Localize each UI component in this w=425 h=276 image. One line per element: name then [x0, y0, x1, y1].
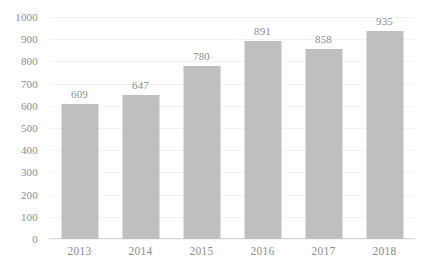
- y-axis-tick-label: 600: [21, 100, 38, 112]
- x-axis-tick-label: 2013: [67, 245, 91, 257]
- bar-value-label: 858: [315, 33, 332, 45]
- bar-group: 780: [171, 17, 232, 239]
- bar-group: 858: [293, 17, 354, 239]
- y-axis: 01002003004005006007008009001000: [0, 0, 45, 276]
- y-axis-tick-label: 500: [21, 122, 38, 134]
- x-axis-tick-label: 2017: [311, 245, 335, 257]
- y-axis-tick-label: 900: [21, 33, 38, 45]
- bar[interactable]: [61, 104, 98, 239]
- x-axis-tick-label: 2016: [250, 245, 274, 257]
- bar[interactable]: [183, 66, 220, 239]
- y-axis-tick-label: 700: [21, 78, 38, 90]
- bar[interactable]: [244, 41, 281, 239]
- bar-chart: 609647780891858935 010020030040050060070…: [0, 0, 425, 276]
- bar-group: 891: [232, 17, 293, 239]
- plot-area: 609647780891858935: [49, 17, 415, 239]
- y-axis-tick-label: 400: [21, 144, 38, 156]
- bar[interactable]: [122, 95, 159, 239]
- bar-value-label: 647: [132, 79, 149, 91]
- bar[interactable]: [366, 31, 403, 239]
- bar-value-label: 891: [254, 25, 271, 37]
- x-axis-tick-label: 2014: [128, 245, 152, 257]
- y-axis-tick-label: 1000: [15, 11, 38, 23]
- bar-group: 647: [110, 17, 171, 239]
- gridline: [49, 239, 415, 240]
- y-axis-tick-label: 100: [21, 211, 38, 223]
- y-axis-tick-label: 300: [21, 166, 38, 178]
- bar-group: 935: [354, 17, 415, 239]
- y-axis-tick-label: 800: [21, 55, 38, 67]
- x-axis-tick-label: 2018: [372, 245, 396, 257]
- bar-value-label: 609: [71, 88, 88, 100]
- y-axis-tick-label: 200: [21, 189, 38, 201]
- x-axis-tick-label: 2015: [189, 245, 213, 257]
- bar-value-label: 935: [376, 15, 393, 27]
- bar-value-label: 780: [193, 50, 210, 62]
- bar-group: 609: [49, 17, 110, 239]
- bar[interactable]: [305, 49, 342, 239]
- y-axis-tick-label: 0: [32, 233, 38, 245]
